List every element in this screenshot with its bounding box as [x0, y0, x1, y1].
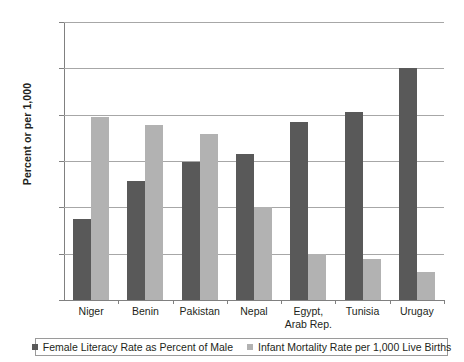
- bars: [390, 22, 444, 300]
- bar: [236, 154, 254, 300]
- x-tick-mark: [335, 300, 336, 304]
- bars: [335, 22, 389, 300]
- bar: [182, 162, 200, 300]
- bar-group: [118, 22, 172, 300]
- bars: [227, 22, 281, 300]
- x-tick-mark: [390, 300, 391, 304]
- x-tick-label: Benin: [118, 305, 172, 330]
- y-axis-title: Percent or per 1,000: [21, 44, 33, 224]
- x-tick-label: Tunisia: [335, 305, 389, 330]
- x-tick-label: Nepal: [227, 305, 281, 330]
- bar: [91, 117, 109, 300]
- x-tick-label: Niger: [64, 305, 118, 330]
- bar: [363, 259, 381, 300]
- x-tick-mark: [281, 300, 282, 304]
- legend-item-female-literacy: Female Literacy Rate as Percent of Male: [32, 341, 233, 353]
- bar: [73, 219, 91, 300]
- bar: [290, 122, 308, 300]
- x-axis-line: [64, 300, 445, 301]
- bar-chart: Percent or per 1,000 020406080100120 Nig…: [0, 0, 464, 362]
- bar: [127, 181, 145, 300]
- bar: [417, 272, 435, 300]
- plot-area: 020406080100120: [64, 22, 444, 300]
- bar-group: [335, 22, 389, 300]
- x-tick-mark: [173, 300, 174, 304]
- bars: [64, 22, 118, 300]
- bar-group: [64, 22, 118, 300]
- bar: [200, 134, 218, 300]
- bars: [118, 22, 172, 300]
- x-tick-label: Pakistan: [173, 305, 227, 330]
- y-tick-mark: [59, 300, 64, 301]
- x-axis-labels: NigerBeninPakistanNepalEgypt, Arab Rep.T…: [64, 305, 444, 330]
- x-tick-mark: [227, 300, 228, 304]
- bar: [308, 254, 326, 300]
- legend-label: Infant Mortality Rate per 1,000 Live Bir…: [258, 341, 451, 353]
- legend-swatch-icon: [32, 344, 38, 350]
- x-tick-label: Urugay: [390, 305, 444, 330]
- bar: [345, 112, 363, 300]
- bar: [145, 125, 163, 300]
- bar: [399, 68, 417, 300]
- legend-item-infant-mortality: Infant Mortality Rate per 1,000 Live Bir…: [247, 341, 451, 353]
- bar-group: [390, 22, 444, 300]
- chart-legend: Female Literacy Rate as Percent of Male …: [35, 338, 448, 356]
- bar-group: [281, 22, 335, 300]
- bars: [173, 22, 227, 300]
- legend-label: Female Literacy Rate as Percent of Male: [43, 341, 233, 353]
- legend-swatch-icon: [247, 344, 253, 350]
- bar-group: [173, 22, 227, 300]
- bar: [254, 207, 272, 300]
- bars: [281, 22, 335, 300]
- x-tick-mark: [118, 300, 119, 304]
- x-tick-label: Egypt, Arab Rep.: [281, 305, 335, 330]
- bar-group: [227, 22, 281, 300]
- x-tick-mark: [444, 300, 445, 304]
- bar-groups: [64, 22, 444, 300]
